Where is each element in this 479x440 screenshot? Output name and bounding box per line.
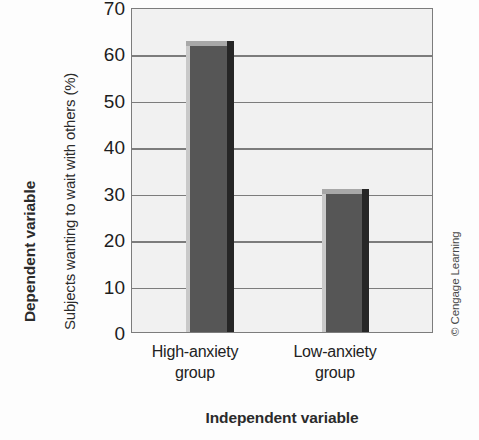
- bar-chart-figure: Dependent variable Subjects wanting to w…: [0, 0, 479, 440]
- x-tick-label-low-anxiety: Low-anxiety group: [265, 341, 405, 383]
- bar-low-anxiety-group: [322, 189, 369, 332]
- y-tick-label-60: 60: [89, 45, 125, 64]
- gridline-40: [132, 148, 432, 150]
- y-tick-label-50: 50: [89, 91, 125, 110]
- copyright-credit: © Cengage Learning: [449, 231, 461, 336]
- x-tick-label-high-anxiety: High-anxiety group: [120, 341, 270, 383]
- bar-right-edge: [362, 189, 369, 332]
- y-axis-tick-labels: 0 10 20 30 40 50 60 70: [87, 8, 125, 333]
- y-tick-label-30: 30: [89, 184, 125, 203]
- bar-front-face: [326, 194, 362, 332]
- gridline-10: [132, 288, 432, 290]
- plot-area: [131, 8, 433, 333]
- x-axis-title: Independent variable: [131, 409, 433, 427]
- gridline-50: [132, 102, 432, 104]
- x-tick-label-low-anxiety-line2: group: [265, 362, 405, 383]
- x-tick-label-high-anxiety-line2: group: [120, 362, 270, 383]
- y-axis-title: Subjects wanting to wait with others (%): [62, 73, 77, 330]
- y-tick-label-40: 40: [89, 138, 125, 157]
- x-tick-label-high-anxiety-line1: High-anxiety: [120, 341, 270, 362]
- y-tick-label-10: 10: [89, 277, 125, 296]
- dependent-variable-axis-label: Dependent variable: [22, 181, 38, 322]
- y-tick-label-70: 70: [89, 0, 125, 18]
- bar-right-edge: [227, 41, 234, 332]
- gridline-30: [132, 195, 432, 197]
- x-tick-label-low-anxiety-line1: Low-anxiety: [265, 341, 405, 362]
- gridline-60: [132, 55, 432, 57]
- y-tick-label-0: 0: [89, 324, 125, 343]
- y-tick-label-20: 20: [89, 231, 125, 250]
- gridline-20: [132, 241, 432, 243]
- bar-front-face: [190, 46, 227, 332]
- bar-high-anxiety-group: [186, 41, 234, 332]
